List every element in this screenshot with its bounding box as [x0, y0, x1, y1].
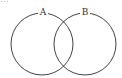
set-a-circle [11, 13, 73, 75]
set-b-label: B [82, 7, 89, 17]
set-a-label: A [39, 7, 47, 17]
venn-diagram: A B [0, 0, 122, 78]
set-b-circle [54, 13, 116, 75]
